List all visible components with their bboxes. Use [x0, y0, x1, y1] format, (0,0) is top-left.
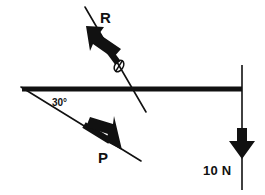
- load-force-label: 10 N: [203, 163, 231, 178]
- reaction-arrowhead-icon: [86, 26, 121, 58]
- beam-angle-label: 30°: [52, 97, 67, 108]
- load-arrowhead-icon: [229, 128, 255, 159]
- applied-force-P: [21, 87, 141, 161]
- force-diagram-figure: R P 10 N 30°: [0, 0, 265, 195]
- reaction-force-label: R: [100, 9, 111, 26]
- applied-force-label: P: [98, 149, 108, 166]
- load-force-10N: [229, 65, 255, 190]
- force-diagram-canvas: R P 10 N 30°: [0, 0, 265, 195]
- applied-force-line: [21, 87, 141, 161]
- reaction-force-R: [85, 7, 146, 112]
